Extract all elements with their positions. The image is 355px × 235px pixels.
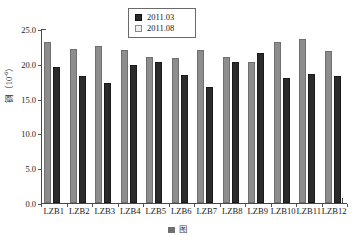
bar-series-2011-03[interactable] — [79, 76, 86, 203]
x-tick-label: LZB10 — [271, 206, 297, 216]
legend-label: 2011.03 — [147, 13, 174, 22]
bar-series-2011-08[interactable] — [44, 42, 51, 203]
x-tick-mark — [220, 204, 221, 207]
bar-series-2011-03[interactable] — [308, 74, 315, 203]
bar-series-2011-08[interactable] — [121, 50, 128, 203]
x-tick-mark — [194, 204, 195, 207]
bar-series-2011-03[interactable] — [130, 65, 137, 204]
x-tick-mark — [347, 204, 348, 207]
bar-series-2011-08[interactable] — [274, 42, 281, 203]
bar-series-2011-03[interactable] — [334, 76, 341, 203]
x-tick-label: LZB12 — [322, 206, 348, 216]
bar-series-2011-03[interactable] — [206, 87, 213, 203]
bar-series-2011-08[interactable] — [248, 62, 255, 203]
chart-legend: 2011.032011.08 — [128, 8, 196, 38]
x-tick-label: LZB9 — [245, 206, 271, 216]
x-tick-label: LZB1 — [41, 206, 67, 216]
bar-group — [297, 30, 323, 203]
bar-group — [195, 30, 221, 203]
legend-item[interactable]: 2011.03 — [135, 12, 190, 23]
bar-series-2011-08[interactable] — [172, 58, 179, 203]
bars-container — [42, 30, 347, 203]
x-tick-mark — [143, 204, 144, 207]
legend-item[interactable]: 2011.08 — [135, 23, 190, 34]
x-tick-mark — [271, 204, 272, 207]
bar-series-2011-08[interactable] — [197, 50, 204, 203]
bar-group — [42, 30, 68, 203]
caption-swatch-icon — [168, 227, 175, 233]
bar-series-2011-08[interactable] — [146, 57, 153, 203]
x-tick-label: LZB5 — [143, 206, 169, 216]
bar-group — [119, 30, 145, 203]
caption-text: 图 — [179, 225, 188, 234]
bar-series-2011-03[interactable] — [283, 78, 290, 203]
x-tick-mark — [41, 204, 42, 207]
legend-label: 2011.08 — [147, 24, 174, 33]
bar-group — [144, 30, 170, 203]
plot-area — [41, 30, 347, 204]
bar-group — [221, 30, 247, 203]
bar-series-2011-08[interactable] — [299, 39, 306, 203]
x-tick-mark — [296, 204, 297, 207]
x-tick-label: LZB6 — [169, 206, 195, 216]
bar-series-2011-08[interactable] — [325, 51, 332, 203]
figure-caption: 图 — [0, 224, 355, 235]
bar-series-2011-08[interactable] — [223, 57, 230, 203]
x-tick-mark — [118, 204, 119, 207]
x-axis-labels: LZB1LZB2LZB3LZB4LZB5LZB6LZB7LZB8LZB9LZB1… — [41, 206, 351, 220]
bar-group — [323, 30, 349, 203]
y-tick-label: 0.0 — [25, 200, 36, 209]
bar-series-2011-08[interactable] — [95, 46, 102, 203]
bar-group — [246, 30, 272, 203]
x-tick-label: LZB8 — [220, 206, 246, 216]
x-tick-label: LZB4 — [118, 206, 144, 216]
x-tick-mark — [322, 204, 323, 207]
y-tick-label: 25.0 — [21, 26, 36, 35]
y-tick-label: 5.0 — [25, 165, 36, 174]
legend-swatch-icon — [135, 25, 142, 32]
bar-series-2011-03[interactable] — [53, 67, 60, 203]
bar-series-2011-08[interactable] — [70, 49, 77, 204]
bar-group — [93, 30, 119, 203]
x-tick-label: LZB11 — [296, 206, 322, 216]
y-axis-ticks: 25.020.015.010.05.00.0 — [8, 24, 38, 206]
bar-series-2011-03[interactable] — [232, 62, 239, 203]
x-tick-mark — [169, 204, 170, 207]
bar-group — [68, 30, 94, 203]
y-tick-label: 15.0 — [21, 96, 36, 105]
y-tick-label: 20.0 — [21, 61, 36, 70]
legend-swatch-icon — [135, 14, 142, 21]
x-tick-label: LZB7 — [194, 206, 220, 216]
x-tick-label: LZB3 — [92, 206, 118, 216]
y-tick-label: 10.0 — [21, 130, 36, 139]
bar-group — [272, 30, 298, 203]
bar-series-2011-03[interactable] — [181, 75, 188, 203]
bar-group — [170, 30, 196, 203]
bar-series-2011-03[interactable] — [155, 62, 162, 203]
bar-series-2011-03[interactable] — [257, 53, 264, 203]
x-tick-mark — [245, 204, 246, 207]
x-tick-mark — [67, 204, 68, 207]
x-tick-label: LZB2 — [67, 206, 93, 216]
x-tick-mark — [92, 204, 93, 207]
bar-chart-figure: 铜（10-6） 25.020.015.010.05.00.0 LZB1LZB2L… — [0, 0, 355, 235]
bar-series-2011-03[interactable] — [104, 83, 111, 203]
